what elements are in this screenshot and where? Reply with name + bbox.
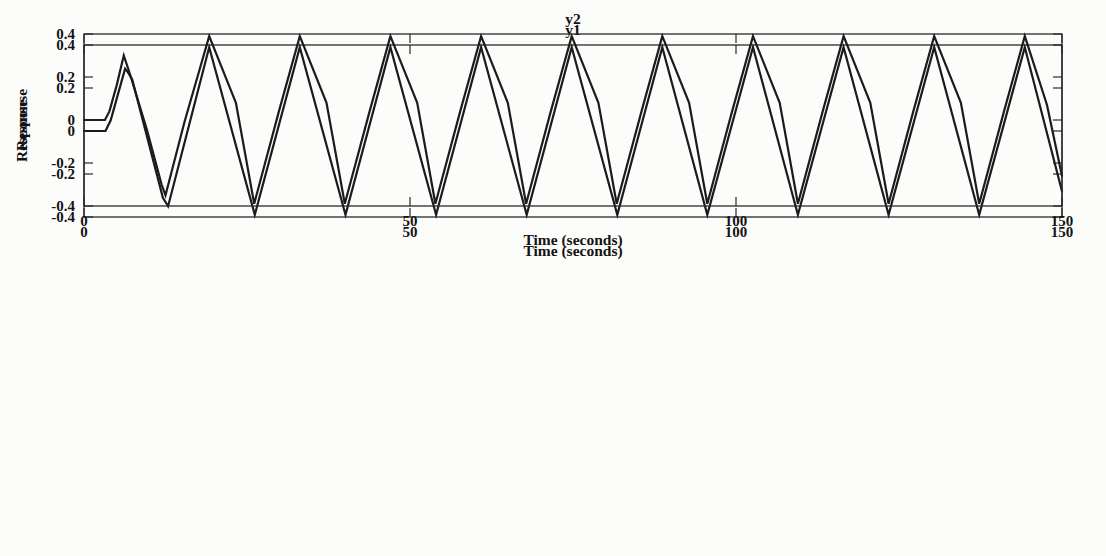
figure: 0501001500.40.20-0.2-0.4y1Time (seconds)… <box>0 0 1106 556</box>
chart-y2: 0501001500.40.20-0.2-0.4y2Time (seconds)… <box>0 0 1106 278</box>
y-tick-label: 0 <box>68 112 76 128</box>
y-tick-label: 0.2 <box>56 69 75 85</box>
plot-title: y2 <box>565 10 581 27</box>
y-axis-label: Response <box>13 89 30 151</box>
x-axis-label: Time (seconds) <box>523 231 622 249</box>
x-tick-label: 0 <box>80 213 88 229</box>
plot-frame <box>84 34 1062 206</box>
x-tick-label: 150 <box>1051 213 1074 229</box>
x-tick-label: 100 <box>725 213 748 229</box>
y-tick-label: 0.4 <box>56 26 75 42</box>
y-tick-label: -0.2 <box>51 155 75 171</box>
y-tick-label: -0.4 <box>51 198 75 214</box>
waveform-y2 <box>84 36 1062 204</box>
x-tick-label: 50 <box>403 213 418 229</box>
